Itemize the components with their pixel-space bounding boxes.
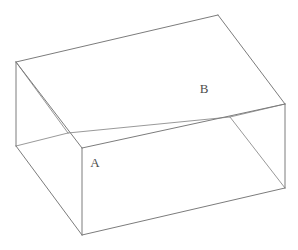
figure-canvas: A B (0, 0, 298, 250)
vertex-label-b: B (200, 81, 209, 96)
open-box-wireframe-diagram: A B (0, 0, 298, 250)
vertex-label-a: A (90, 155, 100, 170)
